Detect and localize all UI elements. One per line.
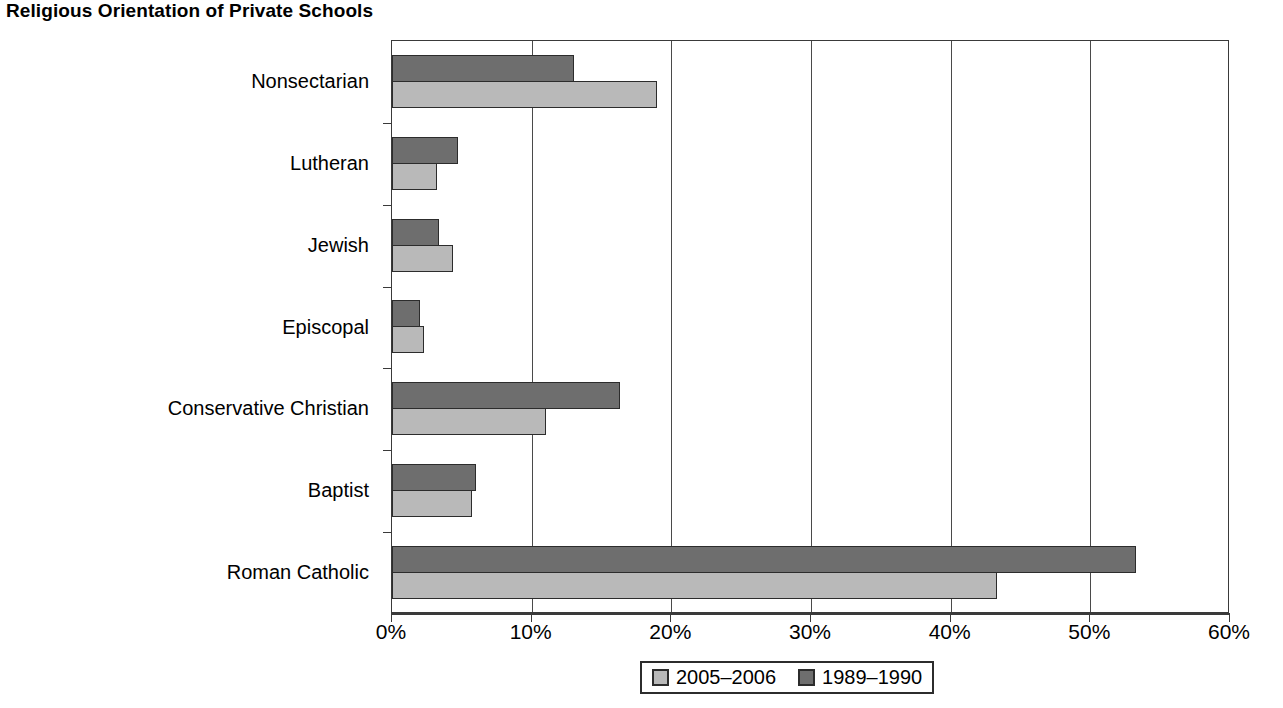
category-label: Baptist [308, 480, 381, 500]
category-band [392, 205, 1228, 287]
bar-2005-2006 [392, 163, 437, 190]
x-axis-label: 0% [351, 620, 431, 644]
category-band [392, 41, 1228, 123]
y-axis-tick [383, 287, 392, 288]
y-axis-tick [383, 450, 392, 451]
bar-2005-2006 [392, 572, 997, 599]
legend-entry: 2005–2006 [652, 666, 776, 689]
bar-1989-1990 [392, 382, 620, 409]
y-axis-tick [383, 532, 392, 533]
bar-1989-1990 [392, 137, 458, 164]
category-axis-labels: NonsectarianLutheranJewishEpiscopalConse… [0, 40, 381, 613]
category-band [392, 123, 1228, 205]
category-label: Conservative Christian [168, 398, 381, 418]
category-band [392, 287, 1228, 369]
category-label: Jewish [308, 235, 381, 255]
x-axis-label: 50% [1049, 620, 1129, 644]
category-label: Lutheran [290, 153, 381, 173]
x-axis-label: 20% [630, 620, 710, 644]
y-axis-tick [383, 368, 392, 369]
x-axis-label: 60% [1189, 620, 1269, 644]
plot-area [391, 40, 1229, 613]
category-band [392, 450, 1228, 532]
bar-1989-1990 [392, 300, 420, 327]
category-band [392, 368, 1228, 450]
legend-label: 1989–1990 [822, 666, 922, 689]
bar-1989-1990 [392, 219, 439, 246]
x-axis-label: 30% [770, 620, 850, 644]
bar-2005-2006 [392, 408, 546, 435]
category-label: Roman Catholic [227, 562, 381, 582]
x-axis-label: 40% [910, 620, 990, 644]
y-axis-tick [383, 205, 392, 206]
bar-2005-2006 [392, 245, 453, 272]
bar-1989-1990 [392, 546, 1136, 573]
category-label: Nonsectarian [251, 71, 381, 91]
chart-legend: 2005–20061989–1990 [640, 661, 934, 694]
x-axis-label: 10% [491, 620, 571, 644]
light-gray-swatch-icon [652, 669, 669, 686]
bar-2005-2006 [392, 81, 657, 108]
legend-label: 2005–2006 [676, 666, 776, 689]
category-label: Episcopal [282, 317, 381, 337]
page-title: Religious Orientation of Private Schools [6, 0, 373, 22]
legend-entry: 1989–1990 [798, 666, 922, 689]
bar-2005-2006 [392, 326, 424, 353]
dark-gray-swatch-icon [798, 669, 815, 686]
bar-2005-2006 [392, 490, 472, 517]
chart-page: Religious Orientation of Private Schools… [0, 0, 1283, 708]
y-axis-tick [383, 123, 392, 124]
bar-1989-1990 [392, 55, 574, 82]
category-band [392, 532, 1228, 614]
bar-1989-1990 [392, 464, 476, 491]
